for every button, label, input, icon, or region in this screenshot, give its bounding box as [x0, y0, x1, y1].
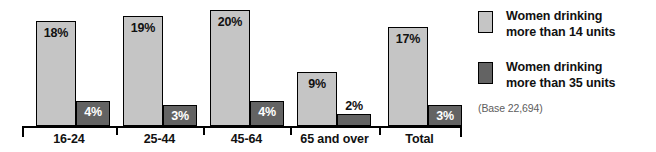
legend-item-label: Women drinking more than 14 units — [506, 8, 615, 40]
category-label-text: 25-44 — [144, 132, 175, 146]
bar-group-total: 17% 3% — [388, 12, 462, 126]
bar-total-more-than-35-units[interactable]: 3% — [428, 105, 462, 126]
bar-value-label: 9% — [298, 78, 336, 91]
bar-65-and-over-more-than-35-units[interactable]: 2% — [337, 114, 371, 126]
bar-45-64-more-than-35-units[interactable]: 4% — [250, 101, 284, 126]
bar-value-label: 17% — [389, 33, 427, 46]
bar-value-label: 19% — [124, 22, 162, 35]
x-axis-label-65-and-over: 65 and over — [290, 130, 379, 149]
bar-25-44-more-than-35-units[interactable]: 3% — [163, 105, 197, 126]
bar-value-label: 18% — [37, 27, 75, 40]
legend-item-label: Women drinking more than 35 units — [506, 59, 615, 91]
legend-swatch-icon — [478, 62, 493, 84]
grouped-bar-chart: 18% 4% 19% 3% 20% 4% — [0, 0, 656, 152]
category-label-text: 16-24 — [53, 132, 84, 146]
legend-swatch-icon — [478, 11, 493, 33]
bar-group-65-and-over: 9% 2% — [297, 12, 371, 126]
x-axis-label-total: Total — [379, 130, 460, 149]
bar-value-label: 3% — [429, 110, 461, 123]
bar-value-label: 2% — [338, 100, 370, 113]
bar-65-and-over-more-than-14-units[interactable]: 9% — [297, 72, 337, 126]
bar-value-label: 3% — [164, 110, 196, 123]
bar-group-25-44: 19% 3% — [123, 12, 197, 126]
bar-total-more-than-14-units[interactable]: 17% — [388, 27, 428, 126]
bar-16-24-more-than-14-units[interactable]: 18% — [36, 21, 76, 126]
bar-45-64-more-than-14-units[interactable]: 20% — [210, 10, 250, 126]
bar-25-44-more-than-14-units[interactable]: 19% — [123, 16, 163, 126]
x-axis-line — [22, 126, 462, 128]
axis-tick-end — [460, 126, 462, 137]
category-label-text: 45-64 — [231, 132, 262, 146]
legend-item-more-than-14-units[interactable]: Women drinking more than 14 units — [478, 8, 656, 40]
bar-value-label: 4% — [251, 106, 283, 119]
chart-legend: Women drinking more than 14 units Women … — [478, 8, 656, 110]
category-label-text: 65 and over — [300, 132, 368, 146]
base-note: (Base 22,694) — [478, 102, 543, 114]
plot-area: 18% 4% 19% 3% 20% 4% — [22, 0, 462, 152]
bar-value-label: 4% — [77, 106, 109, 119]
bar-group-45-64: 20% 4% — [210, 12, 284, 126]
legend-item-more-than-35-units[interactable]: Women drinking more than 35 units — [478, 59, 656, 91]
x-axis-label-16-24: 16-24 — [22, 130, 116, 149]
x-axis-label-25-44: 25-44 — [116, 130, 203, 149]
bar-16-24-more-than-35-units[interactable]: 4% — [76, 101, 110, 126]
x-axis-label-45-64: 45-64 — [203, 130, 290, 149]
bar-value-label: 20% — [211, 16, 249, 29]
bar-group-16-24: 18% 4% — [36, 12, 110, 126]
category-label-text: Total — [405, 132, 433, 146]
